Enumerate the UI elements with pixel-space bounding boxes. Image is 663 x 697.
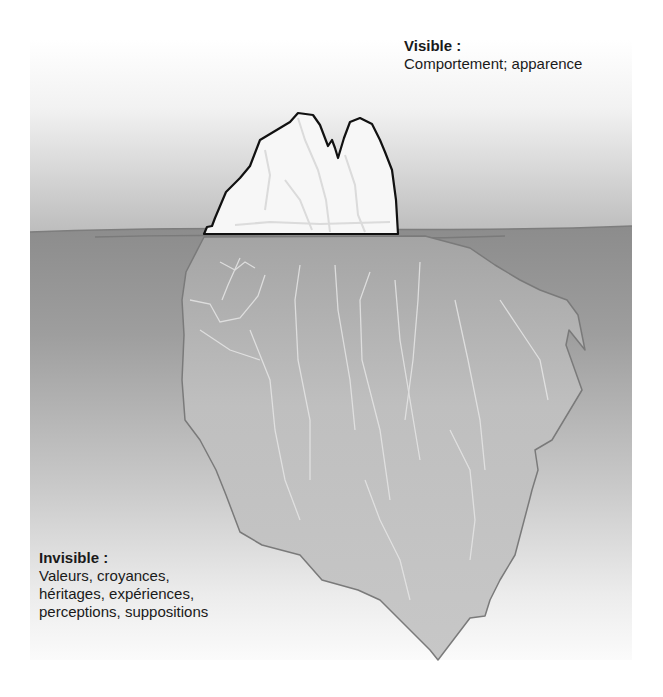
- invisible-label: Invisible : Valeurs, croyances, héritage…: [39, 549, 208, 621]
- visible-title: Visible :: [404, 37, 582, 55]
- invisible-line-2: héritages, expériences,: [39, 585, 208, 603]
- invisible-line-3: perceptions, suppositions: [39, 603, 208, 621]
- visible-label: Visible : Comportement; apparence: [404, 37, 582, 73]
- visible-description: Comportement; apparence: [404, 55, 582, 73]
- invisible-line-1: Valeurs, croyances,: [39, 567, 208, 585]
- invisible-title: Invisible :: [39, 549, 208, 567]
